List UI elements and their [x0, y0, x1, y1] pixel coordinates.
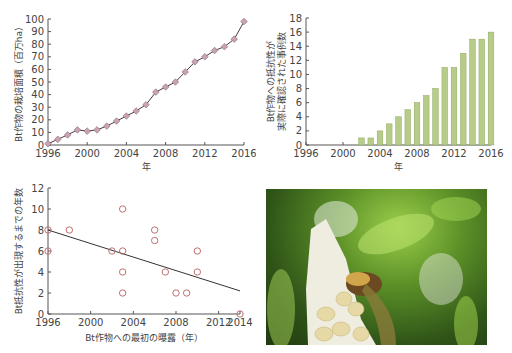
- diamond-marker: [55, 136, 62, 143]
- y-axis-label: Bt作物への抵抗性が: [265, 41, 276, 123]
- bar: [479, 39, 485, 145]
- y-tick-label: 6: [38, 246, 44, 257]
- x-tick-label: 2016: [231, 148, 256, 159]
- diamond-marker: [211, 47, 218, 54]
- diamond-marker: [64, 132, 71, 139]
- diamond-marker: [94, 127, 101, 134]
- y-tick-label: 70: [31, 51, 44, 62]
- data-line: [48, 22, 244, 144]
- y-tick-label: 10: [31, 204, 44, 215]
- diamond-marker: [74, 127, 81, 134]
- photo-illustration: [266, 189, 487, 345]
- y-tick-label: 4: [296, 111, 302, 122]
- diamond-marker: [84, 128, 91, 135]
- y-tick-label: 4: [38, 267, 44, 278]
- y-tick-label: 18: [289, 13, 302, 24]
- trend-line: [48, 230, 240, 291]
- x-tick-label: 2000: [330, 148, 355, 159]
- bar: [386, 124, 392, 145]
- diamond-marker: [133, 108, 140, 115]
- bar: [359, 138, 365, 145]
- x-tick-label: 2008: [404, 148, 429, 159]
- bar: [460, 53, 466, 145]
- y-axis-label: Bt作物の栽培面積（百万ha）: [13, 22, 24, 142]
- diamond-marker: [113, 118, 120, 125]
- x-tick-label: 2016: [478, 148, 503, 159]
- corn-caterpillar-photo: [266, 189, 487, 345]
- x-tick-label: 2008: [163, 317, 188, 328]
- bar: [414, 103, 420, 145]
- scatter-point: [151, 237, 157, 243]
- y-tick-label: 90: [31, 26, 44, 37]
- y-tick-label: 2: [38, 288, 44, 299]
- bar-chart-resistance-cases: 024681012141618199620002004200820122016年…: [256, 0, 512, 176]
- x-tick-label: 1996: [35, 148, 60, 159]
- diamond-marker: [162, 84, 169, 91]
- bar: [470, 39, 476, 145]
- y-tick-label: 12: [31, 183, 44, 194]
- diamond-marker: [202, 54, 209, 61]
- y-tick-label: 40: [31, 89, 44, 100]
- line-chart-svg: 0102030405060708090100199620002004200820…: [0, 0, 256, 176]
- y-tick-label: 10: [31, 127, 44, 138]
- diamond-marker: [241, 18, 248, 25]
- x-tick-label: 2008: [153, 148, 178, 159]
- x-tick-label: 2012: [441, 148, 466, 159]
- scatter-chart-years-to-resistance: 024681012199620002004200820122014Bt作物への最…: [0, 176, 256, 353]
- y-tick-label: 14: [289, 41, 302, 52]
- scatter-point: [183, 290, 189, 296]
- scatter-point: [119, 269, 125, 275]
- x-axis-label: 年: [394, 161, 403, 172]
- y-tick-label: 12: [289, 55, 302, 66]
- scatter-point: [194, 269, 200, 275]
- y-tick-label: 30: [31, 102, 44, 113]
- x-tick-label: 2000: [74, 148, 99, 159]
- x-tick-label: 2004: [114, 148, 139, 159]
- y-tick-label: 100: [25, 14, 44, 25]
- x-tick-label: 1996: [35, 317, 60, 328]
- bar-chart-svg: 024681012141618199620002004200820122016年…: [256, 0, 512, 176]
- bar: [451, 67, 457, 145]
- y-tick-label: 2: [296, 125, 302, 136]
- x-tick-label: 1996: [293, 148, 318, 159]
- diamond-marker: [104, 123, 111, 130]
- scatter-point: [119, 206, 125, 212]
- y-axis-label: 実際に確認された事例数: [276, 32, 287, 131]
- y-tick-label: 50: [31, 77, 44, 88]
- y-tick-label: 6: [296, 97, 302, 108]
- x-tick-label: 2014: [227, 317, 252, 328]
- scatter-point: [66, 227, 72, 233]
- scatter-point: [173, 290, 179, 296]
- line-chart-bt-area: 0102030405060708090100199620002004200820…: [0, 0, 256, 176]
- scatter-point: [162, 269, 168, 275]
- bar: [405, 110, 411, 145]
- y-tick-label: 8: [38, 225, 44, 236]
- diamond-marker: [123, 113, 130, 120]
- x-axis-label: Bt作物への最初の曝露（年）: [85, 332, 203, 343]
- y-axis-label: Bt抵抗性が出現するまでの年数: [13, 188, 24, 315]
- bar: [488, 32, 494, 145]
- bar: [433, 89, 439, 145]
- x-tick-label: 2000: [78, 317, 103, 328]
- bar: [377, 131, 383, 145]
- scatter-point: [194, 248, 200, 254]
- diamond-marker: [45, 140, 52, 147]
- bar: [368, 138, 374, 145]
- y-tick-label: 8: [296, 83, 302, 94]
- scatter-point: [151, 227, 157, 233]
- x-tick-label: 2004: [367, 148, 392, 159]
- bar: [442, 67, 448, 145]
- x-tick-label: 2012: [192, 148, 217, 159]
- y-tick-label: 20: [31, 114, 44, 125]
- y-tick-label: 60: [31, 64, 44, 75]
- y-tick-label: 80: [31, 39, 44, 50]
- bar: [423, 96, 429, 145]
- y-tick-label: 10: [289, 69, 302, 80]
- x-axis-label: 年: [142, 161, 151, 172]
- scatter-chart-svg: 024681012199620002004200820122014Bt作物への最…: [0, 176, 256, 353]
- x-tick-label: 2004: [121, 317, 146, 328]
- scatter-point: [119, 290, 125, 296]
- y-tick-label: 16: [289, 27, 302, 38]
- bar: [396, 117, 402, 145]
